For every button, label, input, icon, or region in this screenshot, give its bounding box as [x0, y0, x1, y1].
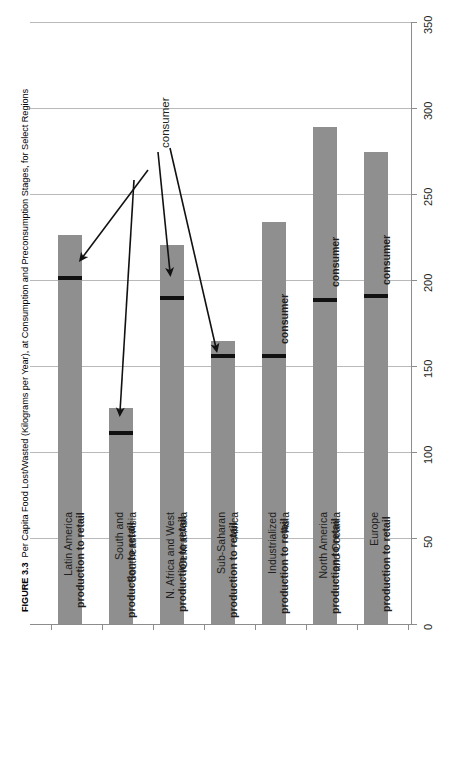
ytick-label-50: 50 [422, 536, 434, 548]
xcat-north-america-oceania: North America and Oceania [317, 512, 342, 632]
xcat-line: South and [113, 512, 126, 632]
figure-title: FIGURE 3.3 Per Capita Food Lost/Wasted (… [20, 89, 30, 612]
xcat-europe: Europe [368, 512, 381, 632]
ytick-label-250: 250 [422, 188, 434, 206]
chart-plot-area: 350 300 250 200 150 100 50 0 production … [30, 0, 420, 640]
xcat-line: Latin America [62, 512, 75, 632]
ytick-label-350: 350 [422, 16, 434, 34]
xcat-line: N. Africa and West [164, 512, 177, 632]
xcat-n-africa-west-central-asia: N. Africa and West /Central Asia [164, 512, 189, 632]
xcat-line: Industrialized [266, 512, 279, 632]
ytick-label-300: 300 [422, 102, 434, 120]
xcat-latin-america: Latin America [62, 512, 75, 632]
xcat-line: Southeast Asia [126, 512, 139, 632]
xcat-line: Asia [279, 512, 292, 632]
ytick-label-100: 100 [422, 446, 434, 464]
xcat-south-southeast-asia: South and Southeast Asia [113, 512, 138, 632]
xcat-line: /Central Asia [177, 512, 190, 632]
arrow-to-latin-america [82, 170, 148, 258]
figure-title-text: Per Capita Food Lost/Wasted (Kilograms p… [20, 89, 30, 558]
xcat-sub-saharan-africa: Sub-Saharan Africa [215, 512, 240, 632]
xcat-line: North America [317, 512, 330, 632]
xcat-line: and Oceania [330, 512, 343, 632]
arrow-to-sub-saharan-africa [170, 148, 216, 348]
figure-title-container: FIGURE 3.3 Per Capita Food Lost/Wasted (… [0, 0, 28, 700]
arrow-to-n-africa-west-central-asia [158, 152, 170, 272]
ytick-label-150: 150 [422, 360, 434, 378]
arrow-to-south-southeast-asia [120, 180, 134, 412]
xcat-line: Africa [228, 512, 241, 632]
xcat-line: Europe [368, 512, 381, 632]
figure-number: FIGURE 3.3 [20, 562, 30, 612]
xcat-line: Sub-Saharan [215, 512, 228, 632]
ytick-label-0: 0 [422, 624, 434, 630]
ytick-label-200: 200 [422, 274, 434, 292]
xcat-industrialized-asia: Industrialized Asia [266, 512, 291, 632]
